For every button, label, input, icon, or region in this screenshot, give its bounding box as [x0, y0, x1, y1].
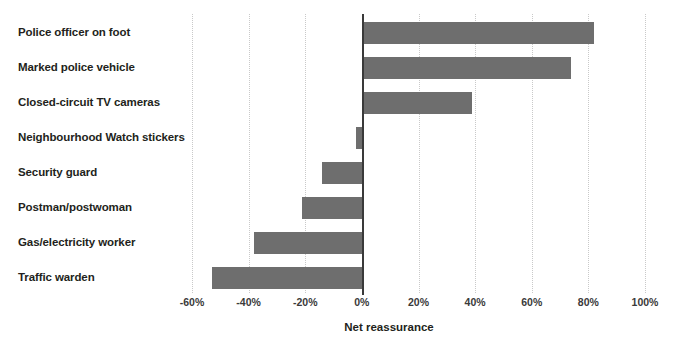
gridline: [419, 14, 420, 293]
category-label: Neighbourhood Watch stickers: [18, 131, 190, 144]
x-tick-label: 40%: [465, 296, 486, 308]
bar: [362, 57, 572, 79]
bar: [212, 267, 362, 289]
gridline: [475, 14, 476, 293]
gridline: [192, 14, 193, 293]
x-tick-label: 60%: [521, 296, 542, 308]
x-tick-label: 80%: [578, 296, 599, 308]
category-label: Gas/electricity worker: [18, 236, 190, 249]
x-tick-label: 20%: [408, 296, 429, 308]
category-axis-labels: Police officer on footMarked police vehi…: [0, 0, 190, 354]
bar: [302, 197, 361, 219]
x-tick-label: -60%: [180, 296, 205, 308]
category-label: Security guard: [18, 166, 190, 179]
x-tick-label: 100%: [632, 296, 659, 308]
gridline: [249, 14, 250, 293]
bar: [362, 92, 472, 114]
x-tick-label: -20%: [293, 296, 318, 308]
plot-area: [192, 14, 645, 293]
category-label: Traffic warden: [18, 271, 190, 284]
bar: [362, 22, 594, 44]
bar-chart: Police officer on footMarked police vehi…: [0, 0, 684, 354]
gridline: [588, 14, 589, 293]
bar: [322, 162, 362, 184]
category-label: Closed-circuit TV cameras: [18, 96, 190, 109]
zero-axis-line: [362, 14, 364, 295]
x-tick-label: -40%: [236, 296, 261, 308]
x-axis-title-text: Net reassurance: [344, 321, 434, 333]
category-label: Postman/postwoman: [18, 201, 190, 214]
x-axis-title: Net reassurance: [0, 321, 684, 333]
x-axis-tick-labels: -60%-40%-20%0%20%40%60%80%100%: [192, 296, 645, 312]
gridline: [645, 14, 646, 293]
category-label: Marked police vehicle: [18, 61, 190, 74]
bar: [254, 232, 362, 254]
category-label: Police officer on foot: [18, 26, 190, 39]
x-tick-label: 0%: [354, 296, 369, 308]
gridline: [532, 14, 533, 293]
